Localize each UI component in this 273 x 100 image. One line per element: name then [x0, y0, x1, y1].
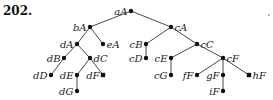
node-cE [169, 56, 173, 60]
node-label-cE: cE [155, 53, 169, 64]
game-tree-diagram: aAbAcAdAeAcBcCdBdCcDcEcFdDdEdFcGfFgFhFdG… [0, 0, 273, 100]
node-label-dA: dA [60, 39, 74, 50]
node-cC [195, 42, 199, 46]
tree-labels: aAbAcAdAeAcBcCdBdCcDcEcFdDdEdFcGfFgFhFdG… [33, 6, 267, 97]
node-bA [88, 25, 92, 29]
node-label-cC: cC [201, 39, 215, 50]
edge-aA-cA [131, 11, 171, 27]
node-label-dF: dF [86, 70, 100, 81]
node-label-cA: cA [175, 22, 188, 33]
node-dC [88, 56, 92, 60]
node-dG [75, 89, 79, 93]
node-cB [144, 42, 148, 46]
node-label-dB: dB [47, 53, 61, 64]
node-gF [221, 73, 225, 77]
edge-cA-cB [146, 27, 171, 44]
node-aA [129, 9, 133, 13]
node-label-dC: dC [94, 53, 108, 64]
node-iF [221, 89, 225, 93]
node-dB [62, 56, 66, 60]
node-dE [75, 73, 79, 77]
stray-dot [268, 14, 270, 16]
node-fF [195, 73, 199, 77]
node-label-gF: gF [206, 70, 220, 81]
node-label-iF: iF [209, 86, 220, 97]
edge-dA-dC [77, 44, 90, 58]
node-dA [75, 42, 79, 46]
node-label-dG: dG [59, 86, 73, 97]
node-label-fF: fF [182, 70, 195, 81]
node-cD [144, 56, 148, 60]
stray-mark [268, 14, 270, 16]
node-cF [221, 56, 225, 60]
node-label-cB: cB [130, 39, 143, 50]
node-label-dE: dE [60, 70, 74, 81]
node-label-bA: bA [73, 22, 87, 33]
node-dF [101, 73, 105, 77]
node-label-cG: cG [154, 70, 168, 81]
node-label-hF: hF [253, 70, 267, 81]
node-cA [169, 25, 173, 29]
node-dD [49, 73, 53, 77]
node-hF [247, 73, 251, 77]
node-label-dD: dD [33, 70, 47, 81]
node-label-cF: cF [227, 53, 241, 64]
node-eA [101, 42, 105, 46]
edge-cC-cE [171, 44, 197, 58]
edge-bA-eA [90, 27, 103, 44]
node-label-aA: aA [114, 6, 127, 17]
node-label-cD: cD [129, 53, 143, 64]
node-label-eA: eA [107, 39, 120, 50]
node-cG [169, 73, 173, 77]
